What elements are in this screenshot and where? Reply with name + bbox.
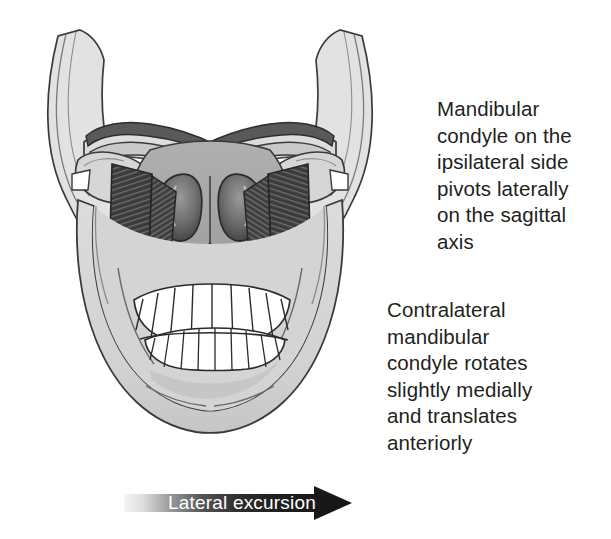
- figure-root: Grayscale anatomical drawing of a human …: [0, 0, 611, 539]
- arrow-shape: [124, 486, 352, 520]
- left-sigmoid-notch: [72, 170, 90, 190]
- skull-illustration: Grayscale anatomical drawing of a human …: [0, 0, 420, 480]
- annotation-contralateral-note: Contralateral mandibular condyle rotates…: [387, 297, 602, 456]
- teeth-group: [134, 284, 290, 371]
- annotation-ipsilateral-note: Mandibular condyle on the ipsilateral si…: [437, 96, 611, 255]
- lateral-excursion-arrow: Lateral excursion: [124, 486, 352, 520]
- arrow-svg: [124, 486, 352, 520]
- right-sigmoid-notch: [330, 170, 348, 190]
- skull-illustration-svg: Grayscale anatomical drawing of a human …: [0, 0, 420, 480]
